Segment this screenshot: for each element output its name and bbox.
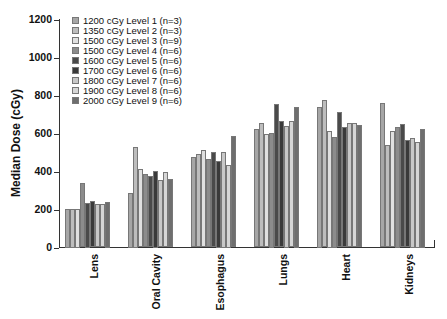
x-axis-line: [59, 247, 435, 248]
bar: [168, 179, 173, 248]
y-tick-label: 1000: [22, 51, 52, 63]
legend-item: 2000 cGy Level 9 (n=6): [72, 95, 182, 105]
legend-swatch: [72, 87, 79, 94]
legend-swatch: [72, 27, 79, 34]
x-axis-end-tick: [434, 240, 435, 248]
x-tick-label: Esophagus: [200, 254, 214, 314]
x-tick-label: Lungs: [263, 254, 277, 314]
legend-item: 1600 cGy Level 5 (n=6): [72, 55, 182, 65]
y-tick-label: 600: [22, 127, 52, 139]
y-tick-label: 800: [22, 89, 52, 101]
legend-swatch: [72, 17, 79, 24]
bar: [294, 107, 299, 248]
y-tick-label: 400: [22, 165, 52, 177]
legend-item: 1900 cGy Level 8 (n=6): [72, 85, 182, 95]
legend-item: 1350 cGy Level 2 (n=3): [72, 25, 182, 35]
legend-swatch: [72, 47, 79, 54]
x-tick-label: Heart: [326, 254, 340, 314]
y-axis-title-text: Median Dose (cGy): [9, 89, 23, 197]
bar: [105, 202, 110, 248]
y-tick-label: 1200: [22, 13, 52, 25]
legend-swatch: [72, 57, 79, 64]
legend-item: 1700 cGy Level 6 (n=6): [72, 65, 182, 75]
y-tick-label: 200: [22, 203, 52, 215]
legend-item: 1200 cGy Level 1 (n=3): [72, 15, 182, 25]
y-tick-label: 0: [22, 241, 52, 253]
bar: [420, 129, 425, 248]
legend-swatch: [72, 97, 79, 104]
legend-item: 1500 cGy Level 4 (n=6): [72, 45, 182, 55]
x-tick-label: Lens: [74, 254, 88, 314]
legend-swatch: [72, 37, 79, 44]
legend-label: 2000 cGy Level 9 (n=6): [83, 95, 182, 106]
x-tick-label: Kidneys: [389, 254, 403, 314]
legend-swatch: [72, 67, 79, 74]
legend-swatch: [72, 77, 79, 84]
y-tick: [54, 248, 59, 249]
x-tick-label: Oral Cavity: [137, 254, 151, 314]
legend-item: 1500 cGy Level 3 (n=9): [72, 35, 182, 45]
legend: 1200 cGy Level 1 (n=3)1350 cGy Level 2 (…: [72, 15, 182, 105]
bar: [357, 125, 362, 248]
y-axis-line: [59, 19, 60, 248]
bar: [231, 136, 236, 248]
legend-item: 1800 cGy Level 7 (n=6): [72, 75, 182, 85]
